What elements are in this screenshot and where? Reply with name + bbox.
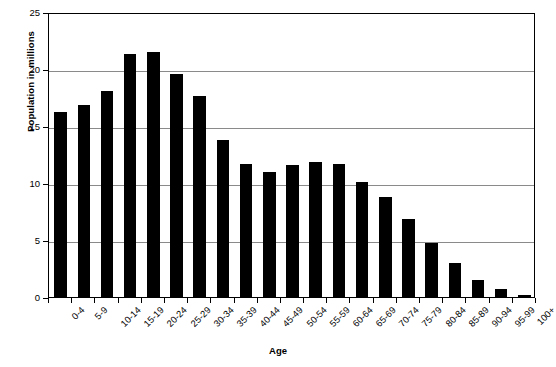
x-axis-tick-label: 20-24 xyxy=(165,305,189,329)
x-axis-tick-mark xyxy=(210,298,211,303)
x-axis-tick-label: 25-29 xyxy=(189,305,213,329)
bar xyxy=(240,164,253,297)
y-axis-tick-label: 0 xyxy=(4,293,40,303)
x-axis-tick-mark xyxy=(349,298,350,303)
x-axis-tick-mark xyxy=(280,298,281,303)
bar xyxy=(402,219,415,297)
x-axis-tick-mark xyxy=(94,298,95,303)
bar xyxy=(147,52,160,297)
x-axis-tick-mark xyxy=(48,298,49,303)
x-axis-title: Age xyxy=(0,345,556,356)
x-axis-tick-label: 85-89 xyxy=(467,305,491,329)
x-axis-tick-label: 30-34 xyxy=(212,305,236,329)
y-axis-tick-label: 10 xyxy=(4,179,40,189)
x-axis-tick-label: 95-99 xyxy=(513,305,537,329)
x-axis-tick-label: 70-74 xyxy=(397,305,421,329)
x-axis-tick-mark xyxy=(234,298,235,303)
x-axis-tick-label: 45-49 xyxy=(281,305,305,329)
y-axis-tick-label: 25 xyxy=(4,8,40,18)
x-axis-tick-label: 60-64 xyxy=(351,305,375,329)
bar xyxy=(356,182,369,297)
x-axis-tick-mark xyxy=(419,298,420,303)
x-axis-tick-mark xyxy=(326,298,327,303)
x-axis-tick-mark xyxy=(118,298,119,303)
x-axis-tick-mark xyxy=(141,298,142,303)
bar xyxy=(170,74,183,297)
y-axis-title: Population in millions xyxy=(25,0,36,172)
x-axis-tick-mark xyxy=(396,298,397,303)
bar xyxy=(263,172,276,297)
bar-chart: Population in millions 0510152025 0-45-9… xyxy=(0,0,556,367)
bar xyxy=(379,197,392,297)
bar xyxy=(495,289,508,297)
x-axis-tick-label: 65-69 xyxy=(374,305,398,329)
x-axis-tick-mark xyxy=(512,298,513,303)
y-axis-tick-label: 5 xyxy=(4,236,40,246)
bar-series xyxy=(49,14,534,297)
bar xyxy=(472,280,485,297)
x-axis-tick-mark xyxy=(535,298,536,303)
x-axis-tick-label: 10-14 xyxy=(119,305,143,329)
x-axis-tick-mark xyxy=(187,298,188,303)
x-axis-tick-mark xyxy=(465,298,466,303)
x-axis-tick-label: 80-84 xyxy=(444,305,468,329)
x-axis-tick-mark xyxy=(303,298,304,303)
bar xyxy=(101,91,114,297)
x-axis-tick-mark xyxy=(71,298,72,303)
x-axis-tick-label: 15-19 xyxy=(142,305,166,329)
plot-area xyxy=(48,13,535,298)
bar xyxy=(449,263,462,297)
x-axis-tick-mark xyxy=(489,298,490,303)
x-axis-tick-mark xyxy=(373,298,374,303)
x-axis-tick-label: 100+ xyxy=(536,305,556,327)
x-axis-tick-label: 75-79 xyxy=(420,305,444,329)
x-axis-tick-mark xyxy=(257,298,258,303)
bar xyxy=(193,96,206,297)
x-axis-tick-label: 40-44 xyxy=(258,305,282,329)
bar xyxy=(217,140,230,297)
x-axis-tick-label: 50-54 xyxy=(304,305,328,329)
bar xyxy=(425,243,438,297)
x-axis-tick-label: 0-4 xyxy=(70,305,87,322)
bar xyxy=(286,165,299,297)
y-axis-tick-label: 20 xyxy=(4,65,40,75)
x-axis-tick-mark xyxy=(442,298,443,303)
y-axis-tick-label: 15 xyxy=(4,122,40,132)
bar xyxy=(518,295,531,297)
bar xyxy=(124,54,137,297)
x-axis-tick-mark xyxy=(164,298,165,303)
x-axis-tick-label: 5-9 xyxy=(93,305,110,322)
bar xyxy=(309,162,322,297)
x-axis-tick-label: 35-39 xyxy=(235,305,259,329)
bar xyxy=(78,105,91,297)
bar xyxy=(54,112,67,297)
x-axis-tick-label: 90-94 xyxy=(490,305,514,329)
bar xyxy=(333,164,346,297)
x-axis-tick-label: 55-59 xyxy=(328,305,352,329)
